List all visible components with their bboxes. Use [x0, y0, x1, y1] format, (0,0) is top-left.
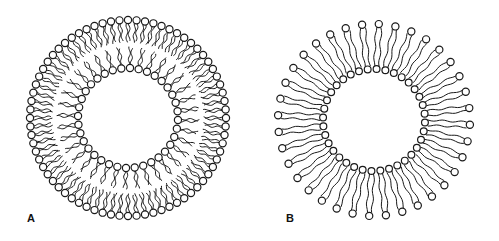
bipolar-lipid-tail — [374, 28, 377, 66]
lipid-head-outer — [83, 26, 90, 33]
bipolar-head-outer — [422, 36, 429, 43]
bipolar-head-outer — [279, 145, 286, 152]
bipolar-head-outer — [464, 138, 471, 145]
bipolar-lipid-tail — [392, 171, 403, 207]
bipolar-head-inner — [328, 89, 335, 96]
bipolar-head-outer — [466, 104, 473, 111]
lipid-head-outer — [26, 114, 33, 121]
lipid-tail — [34, 118, 52, 120]
lipid-tail — [81, 36, 91, 50]
lipid-head-inner — [122, 164, 129, 171]
lipid-tail — [130, 49, 132, 65]
lipid-head-outer — [187, 39, 194, 46]
bipolar-head-inner — [394, 162, 401, 169]
lipid-head-inner — [174, 108, 181, 115]
bipolar-lipid-tail — [350, 31, 361, 67]
lipid-head-outer — [61, 189, 68, 196]
vesicle-diagram-canvas — [0, 0, 499, 241]
lipid-head-outer — [30, 89, 37, 96]
lipid-head-inner — [109, 67, 116, 74]
bipolar-head-outer — [382, 212, 389, 219]
lipid-head-inner — [118, 65, 125, 72]
lipid-head-outer — [116, 17, 123, 24]
lipid-tail — [199, 79, 214, 87]
lipid-tail — [67, 46, 78, 61]
bipolar-lipid-tail — [285, 96, 322, 104]
lipid-tail — [181, 121, 197, 123]
bipolar-head-inner — [321, 105, 328, 112]
bipolar-head-inner — [336, 154, 343, 161]
bipolar-lipid-tail — [366, 174, 369, 212]
bipolar-lipid-tail — [387, 173, 398, 209]
lipid-tail — [181, 110, 197, 113]
lipid-head-outer — [124, 212, 131, 219]
lipid-head-outer — [32, 148, 39, 155]
bipolar-lipid-tail — [360, 29, 365, 67]
lipid-tail — [188, 165, 201, 178]
bipolar-head-outer — [447, 58, 454, 65]
lipid-head-outer — [28, 131, 35, 138]
bipolar-head-inner — [382, 67, 389, 74]
lipid-head-outer — [27, 123, 34, 130]
lipid-tail — [78, 70, 89, 82]
lipid-head-inner — [114, 163, 121, 170]
bipolar-head-inner — [340, 76, 347, 83]
lipid-head-outer — [205, 58, 212, 65]
bilayer-vesicle-a — [26, 16, 229, 219]
lipid-tail — [156, 189, 161, 207]
lipid-head-outer — [91, 22, 98, 29]
lipid-tail — [161, 188, 167, 204]
lipid-head-outer — [107, 18, 114, 25]
bipolar-lipid-tail — [351, 173, 359, 210]
bipolar-head-outer — [294, 174, 301, 181]
lipid-head-inner — [87, 81, 94, 88]
lipid-tail — [147, 52, 155, 68]
lipid-head-outer — [181, 34, 188, 41]
lipid-tail — [123, 172, 125, 188]
lipid-head-inner — [172, 99, 179, 106]
bipolar-head-outer — [466, 121, 473, 128]
lipid-head-outer — [219, 140, 226, 147]
lipid-head-inner — [158, 77, 165, 84]
bipolar-head-inner — [330, 147, 337, 154]
bipolar-head-outer — [462, 88, 469, 95]
lipid-head-outer — [216, 148, 223, 155]
lipid-head-outer — [44, 171, 51, 178]
lipid-head-inner — [78, 95, 85, 102]
bipolar-lipid-tail — [428, 110, 466, 115]
bipolar-head-inner — [320, 114, 327, 121]
bipolar-lipid-tail — [392, 34, 407, 69]
bipolar-head-inner — [416, 93, 423, 100]
lipid-head-outer — [55, 45, 62, 52]
lipid-tail — [126, 172, 128, 189]
lipid-tail — [189, 64, 205, 73]
lipid-head-outer — [36, 73, 43, 80]
lipid-head-outer — [28, 97, 35, 104]
lipid-head-outer — [199, 51, 206, 58]
lipid-head-outer — [116, 212, 123, 219]
lipid-tail — [128, 47, 130, 64]
lipid-tail — [154, 191, 159, 207]
bipolar-head-inner — [419, 102, 426, 109]
lipid-tail — [34, 125, 52, 128]
bipolar-lipid-tail — [425, 91, 461, 102]
lipid-head-outer — [221, 97, 228, 104]
lipid-head-outer — [219, 89, 226, 96]
bipolar-head-inner — [422, 119, 429, 126]
panel-label-a: A — [27, 212, 35, 224]
lipid-head-inner — [140, 162, 147, 169]
bipolar-lipid-tail — [379, 28, 382, 66]
bipolar-head-outer — [275, 112, 282, 119]
lipid-head-outer — [107, 211, 114, 218]
lipid-tail — [120, 24, 123, 41]
bipolar-head-inner — [418, 136, 425, 143]
lipid-head-outer — [68, 34, 75, 41]
bipolar-lipid-tail — [287, 139, 323, 150]
lipid-head-outer — [32, 81, 39, 88]
lipid-head-outer — [213, 156, 220, 163]
bipolar-head-outer — [428, 193, 435, 200]
bipolar-head-outer — [392, 23, 399, 30]
lipid-tail — [39, 144, 55, 148]
lipid-head-outer — [133, 212, 140, 219]
lipid-head-outer — [194, 45, 201, 52]
